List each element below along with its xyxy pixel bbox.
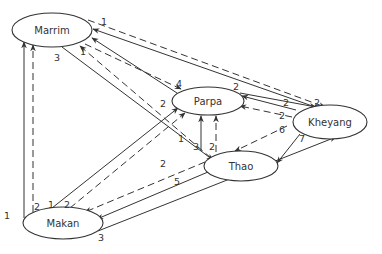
- edge-label: 2: [233, 81, 239, 92]
- edge-thao-makan-solid: [97, 172, 208, 219]
- node-label-marrim: Marrim: [34, 25, 69, 36]
- node-makan: Makan: [23, 207, 103, 239]
- edge-label: 2: [209, 141, 215, 152]
- edge-label: 3: [193, 141, 199, 152]
- edge-labels: 1 3 1 4 2 2 2 2 2 6 7 1 3 2 2 5 1 2 1 2 …: [4, 16, 320, 243]
- node-label-thao: Thao: [228, 161, 254, 172]
- edge-label: 2: [160, 158, 166, 169]
- edge-label: 1: [48, 199, 54, 210]
- edge-label: 2: [314, 97, 320, 108]
- edge-makan-kheyang-solid: [98, 137, 336, 231]
- edge-marrim-parpa-dashed: [85, 44, 181, 89]
- edge-label: 6: [279, 124, 285, 135]
- edge-label: 2: [34, 201, 40, 212]
- edge-label: 4: [176, 78, 182, 89]
- edge-label: 3: [54, 52, 60, 63]
- node-label-kheyang: Kheyang: [308, 117, 352, 128]
- node-label-parpa: Parpa: [194, 96, 222, 107]
- edge-label: 1: [101, 16, 107, 27]
- edge-label: 7: [299, 133, 305, 144]
- node-thao: Thao: [204, 151, 278, 181]
- edge-label: 2: [160, 98, 166, 109]
- edge-parpa-marrim-solid: [92, 38, 177, 93]
- edge-label: 1: [4, 210, 10, 221]
- edge-label: 2: [283, 97, 289, 108]
- edges: [24, 20, 336, 231]
- edge-label: 1: [80, 46, 86, 57]
- edge-kheyang-thao-solid: [277, 134, 300, 163]
- edge-label: 1: [178, 133, 184, 144]
- network-diagram: Marrim Parpa Kheyang Thao Makan 1 3 1 4 …: [0, 0, 382, 254]
- edge-label: 5: [174, 176, 180, 187]
- edge-label: 2: [279, 110, 285, 121]
- edge-label: 2: [64, 199, 70, 210]
- edge-label: 3: [98, 232, 104, 243]
- edge-thao-makan-dashed: [85, 162, 205, 212]
- node-label-makan: Makan: [47, 218, 80, 229]
- node-marrim: Marrim: [12, 13, 92, 47]
- edge-makan-parpa-dashed: [70, 113, 185, 208]
